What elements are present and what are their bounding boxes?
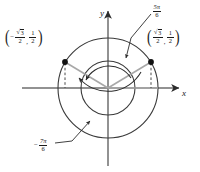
angle-label-neg-7pi-6: − 7π 6: [34, 138, 48, 153]
right-y-numerator: 1: [168, 30, 173, 37]
angle-upper-denominator: 6: [154, 12, 159, 19]
left-y-denominator: 2: [30, 38, 35, 45]
right-x-fraction: √ 3 2: [153, 29, 163, 44]
left-y-numerator: 1: [30, 30, 35, 37]
angle-lower-denominator: 6: [41, 146, 46, 153]
right-x-radicand: 3: [158, 29, 162, 36]
x-axis-label: x: [181, 88, 186, 98]
angle-lower-minus-sign: −: [34, 142, 38, 149]
angle-label-5pi-6: 5π 6: [152, 4, 162, 19]
left-x-denominator: 2: [18, 38, 23, 45]
angle-upper-numerator: 5π: [153, 4, 162, 11]
left-x-numerator: √ 3: [15, 29, 25, 37]
left-x-fraction: √ 3 2: [15, 29, 25, 44]
right-point-coordinate-label: ( √ 3 2 , 1 2 ): [146, 29, 181, 45]
right-x-denominator: 2: [155, 38, 160, 45]
right-close-paren: ): [175, 29, 180, 45]
radius-line-left: [65, 62, 108, 88]
unit-circle-diagram: x y: [0, 0, 200, 172]
right-open-paren: (: [147, 29, 152, 45]
angle-lower-fraction: 7π 6: [39, 138, 48, 153]
right-y-denominator: 2: [168, 38, 173, 45]
y-axis-label: y: [99, 8, 104, 18]
terminal-point-left: [62, 59, 68, 65]
left-x-radicand: 3: [20, 29, 24, 36]
right-x-numerator: √ 3: [153, 29, 163, 37]
left-y-fraction: 1 2: [29, 30, 36, 45]
left-close-paren: ): [38, 29, 43, 45]
left-point-coordinate-label: ( − √ 3 2 , 1 2 ): [4, 29, 43, 45]
right-comma: ,: [163, 39, 166, 46]
left-comma: ,: [26, 39, 29, 46]
left-minus-sign: −: [10, 34, 14, 41]
angle-lower-numerator: 7π: [39, 138, 48, 145]
angle-upper-fraction: 5π 6: [153, 4, 162, 19]
unit-circle-figure: x y ( − √ 3 2: [0, 0, 200, 172]
terminal-point-right: [148, 59, 154, 65]
left-open-paren: (: [5, 29, 10, 45]
right-y-fraction: 1 2: [167, 30, 174, 45]
